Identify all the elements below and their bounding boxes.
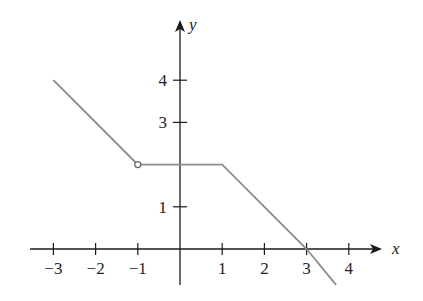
curve-segment-1	[53, 80, 135, 162]
x-tick-label: −1	[129, 259, 147, 278]
open-circle-marker	[135, 162, 141, 168]
x-axis-label: x	[391, 239, 400, 258]
x-tick-label: −2	[87, 259, 105, 278]
y-axis-label: y	[187, 15, 197, 34]
ticks	[53, 80, 348, 255]
labels: −3−2−11234134xy	[44, 15, 400, 278]
x-tick-label: 4	[345, 259, 354, 278]
x-tick-label: 3	[302, 259, 311, 278]
function-graph: −3−2−11234134xy	[0, 0, 423, 301]
y-tick-label: 3	[159, 113, 168, 132]
x-tick-label: −3	[44, 259, 62, 278]
axes	[30, 22, 380, 285]
y-tick-label: 1	[159, 198, 168, 217]
x-tick-label: 1	[218, 259, 227, 278]
x-tick-label: 2	[260, 259, 269, 278]
y-tick-label: 4	[159, 71, 168, 90]
